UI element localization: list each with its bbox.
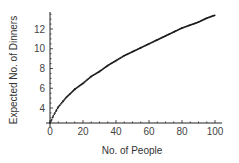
data-point: [54, 112, 56, 114]
x-tick-label: 40: [110, 126, 122, 137]
x-axis-label: No. of People: [102, 145, 163, 156]
data-point: [52, 115, 54, 117]
y-tick-label: 12: [34, 24, 46, 35]
x-tick-label: 100: [207, 126, 224, 137]
y-tick-label: 10: [34, 43, 46, 54]
x-tick-label: 20: [77, 126, 89, 137]
y-tick-label: 6: [39, 83, 45, 94]
data-point: [56, 109, 58, 111]
x-tick-label: 60: [143, 126, 155, 137]
data-point: [51, 119, 53, 121]
data-series: [49, 14, 215, 123]
axes: 0204060801004681012: [34, 12, 224, 137]
data-point: [49, 122, 51, 124]
x-tick-label: 0: [47, 126, 53, 137]
data-point: [52, 117, 54, 119]
y-axis-label: Expected No. of Dinners: [8, 16, 19, 124]
y-tick-label: 4: [39, 103, 45, 114]
x-tick-label: 80: [176, 126, 188, 137]
data-point: [214, 14, 216, 16]
chart: 0204060801004681012 No. of People Expect…: [0, 0, 239, 163]
y-tick-label: 8: [39, 63, 45, 74]
